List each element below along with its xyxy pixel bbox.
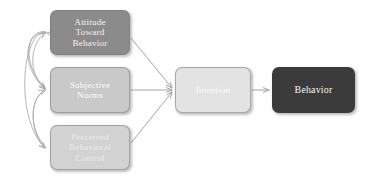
node-behavior[interactable]: Behavior (272, 67, 355, 113)
connector-arc-c (33, 33, 46, 89)
node-perceived-behavioral-control[interactable]: Perceived Behavioral Control (50, 125, 130, 170)
node-attitude-label: Attitude Toward Behavior (51, 17, 129, 48)
node-intention[interactable]: Intention (175, 67, 251, 113)
diagram-canvas: Attitude Toward Behavior Subjective Norm… (0, 0, 375, 180)
connector-pbc-to-intention (131, 92, 172, 143)
connector-arc-b (33, 90, 46, 148)
node-subjective-norms-label: Subjective Norms (51, 80, 129, 101)
node-intention-label: Intention (176, 85, 250, 95)
node-behavior-label: Behavior (273, 84, 354, 95)
node-attitude-toward-behavior[interactable]: Attitude Toward Behavior (50, 10, 130, 55)
node-perceived-behavioral-control-label: Perceived Behavioral Control (51, 132, 129, 163)
connector-attitude-to-intention (131, 38, 172, 88)
node-subjective-norms[interactable]: Subjective Norms (50, 67, 130, 113)
